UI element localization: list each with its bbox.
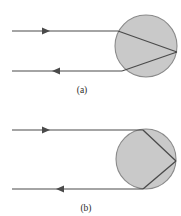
- sphere-b: [116, 129, 176, 189]
- figure-container: (a) (b): [0, 0, 181, 216]
- panel-b-caption: (b): [80, 203, 91, 214]
- panel-a: (a): [12, 15, 177, 96]
- outgoing-ray-arrowhead-b: [56, 186, 64, 193]
- ray-diagram-svg: (a) (b): [0, 0, 181, 216]
- outgoing-ray-arrowhead-a: [52, 68, 60, 75]
- incoming-ray-arrowhead-a: [42, 28, 50, 35]
- incoming-ray-arrowhead-b: [42, 127, 50, 134]
- sphere-a: [115, 15, 177, 77]
- panel-a-caption: (a): [77, 85, 88, 96]
- panel-b: (b): [12, 127, 176, 214]
